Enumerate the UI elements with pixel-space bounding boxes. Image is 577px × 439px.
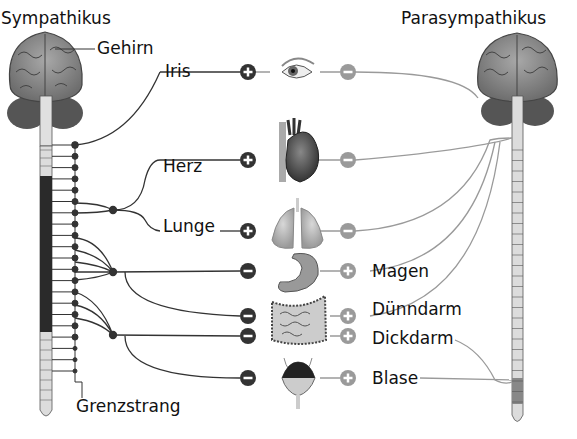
label-gehirn: Gehirn — [97, 40, 154, 57]
label-dickdarm: Dickdarm — [372, 330, 453, 347]
label-iris: Iris — [165, 63, 191, 80]
parasympathetic-plus-icon — [340, 308, 356, 324]
sympathetic-plus-icon — [240, 152, 256, 168]
label-blase: Blase — [372, 370, 418, 387]
parasympathetic-plus-icon — [340, 263, 356, 279]
label-lunge: Lunge — [163, 218, 215, 235]
parasympathetic-minus-icon — [340, 223, 356, 239]
autonomic-nervous-system-diagram: Sympathikus Parasympathikus Gehirn Iris … — [0, 0, 577, 439]
eye-icon — [282, 58, 314, 78]
left-spinal-cord — [40, 96, 52, 416]
parasympathetic-minus-icon — [340, 152, 356, 168]
heart-icon — [279, 118, 319, 182]
parasympathetic-minus-icon — [340, 64, 356, 80]
sympathikus-title: Sympathikus — [1, 10, 111, 27]
sympathetic-plus-icon — [240, 64, 256, 80]
diagram-graphics — [0, 0, 577, 439]
sympathetic-plus-icon — [240, 223, 256, 239]
sympathetic-minus-icon — [240, 308, 256, 324]
lungs-icon — [272, 198, 323, 248]
label-duenndarm: Dünndarm — [372, 301, 462, 318]
parasympathikus-title: Parasympathikus — [401, 10, 546, 27]
sympathetic-minus-icon — [240, 328, 256, 344]
right-spinal-cord — [512, 96, 523, 422]
parasympathetic-plus-icon — [340, 370, 356, 386]
bladder-icon — [282, 358, 315, 409]
parasympathetic-plus-icon — [340, 328, 356, 344]
label-grenzstrang: Grenzstrang — [76, 398, 180, 415]
label-magen: Magen — [372, 263, 429, 280]
sympathetic-minus-icon — [240, 263, 256, 279]
sympathetic-minus-icon — [240, 370, 256, 386]
stomach-icon — [278, 253, 318, 292]
sympathetic-trunk — [52, 142, 82, 398]
intestines-icon — [272, 296, 326, 344]
label-herz: Herz — [163, 158, 202, 175]
